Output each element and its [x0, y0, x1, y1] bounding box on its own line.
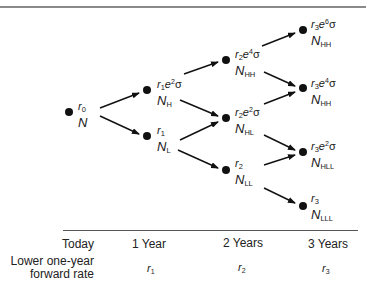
node-dot-year2-hh — [222, 56, 230, 64]
node-label-year1-high: r1e2σ NH — [157, 76, 182, 112]
node-dot-year1-high — [143, 86, 151, 94]
arrow-ll-down — [264, 188, 295, 203]
node-label-year3-hhl: r3e4σ NHH — [311, 75, 336, 111]
node-dot-year2-ll — [222, 166, 230, 174]
arrow-l-up — [180, 122, 218, 140]
node-label-year3-lll: r3 NLLL — [311, 192, 333, 226]
arrow-ll-up — [264, 155, 295, 165]
node-label-year2-hl: r2e2σ NHL — [235, 104, 260, 140]
node-dot-year2-hl — [222, 114, 230, 122]
node-dot-year3-hhh — [299, 26, 307, 34]
axis-label-today: Today — [54, 237, 94, 251]
node-label-today: r0 N — [78, 100, 87, 130]
node-label-year3-hll: r3e2σ NHLL — [311, 138, 336, 174]
node-dot-today — [65, 108, 73, 116]
arrow-hh-down — [264, 72, 295, 86]
axis-separator — [63, 230, 358, 231]
forward-rate-year2: r2 — [238, 261, 246, 274]
node-label-year1-low: r1 NL — [157, 124, 171, 158]
axis-label-1-year: 1 Year — [132, 237, 166, 251]
node-dot-year3-lll — [299, 202, 307, 210]
node-dot-year3-hll — [299, 148, 307, 156]
node-label-year2-ll: r2 NLL — [235, 157, 253, 191]
arrow-hh-up — [262, 33, 295, 46]
arrow-today-up — [100, 93, 139, 108]
row-label-forward-rate: Lower one-year forward rate — [0, 255, 94, 281]
node-label-year2-hh: r2e4σ NHH — [235, 46, 260, 82]
node-dot-year3-hhl — [299, 84, 307, 92]
arrow-l-down — [178, 150, 218, 168]
axis-label-3-years: 3 Years — [308, 237, 348, 251]
arrow-h-down — [180, 100, 218, 116]
node-dot-year1-low — [143, 132, 151, 140]
arrow-hl-down — [264, 135, 295, 150]
axis-label-2-years: 2 Years — [223, 236, 263, 250]
arrow-h-up — [184, 62, 218, 74]
forward-rate-year1: r1 — [147, 262, 155, 275]
node-label-year3-hhh: r3e6σ NHH — [311, 16, 336, 52]
forward-rate-year3: r3 — [322, 262, 330, 275]
arrow-today-down — [100, 116, 139, 134]
arrow-hl-up — [264, 92, 295, 104]
